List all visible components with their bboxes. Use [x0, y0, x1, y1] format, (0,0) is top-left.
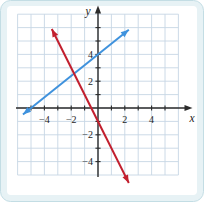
y-tick-label: −4: [82, 156, 93, 167]
y-axis-label: y: [84, 5, 91, 18]
y-tick-label: 2: [88, 76, 93, 87]
graph-card: −4−22442−2−4xy: [0, 0, 204, 202]
x-tick-label: 2: [122, 114, 127, 125]
x-tick-label: −4: [39, 114, 50, 125]
plot-background: [7, 6, 197, 195]
y-tick-label: −2: [82, 129, 93, 140]
x-tick-label: 4: [149, 114, 154, 125]
x-tick-label: −2: [66, 114, 77, 125]
x-axis-label: x: [188, 112, 195, 124]
coordinate-plane: −4−22442−2−4xy: [0, 0, 204, 202]
